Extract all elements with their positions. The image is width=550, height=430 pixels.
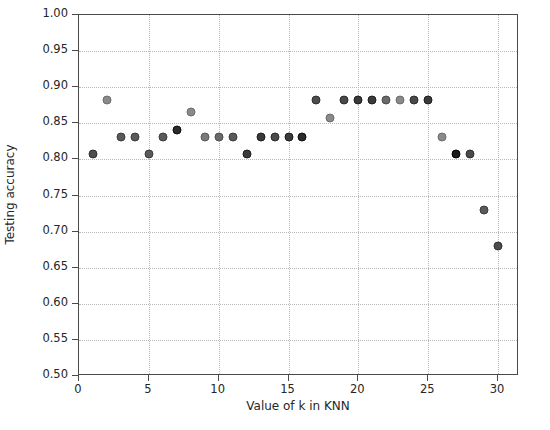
data-point <box>438 133 447 142</box>
data-point <box>144 150 153 159</box>
y-tick-label: 0.85 <box>30 114 68 128</box>
data-point <box>396 96 405 105</box>
x-tick-mark <box>218 375 219 381</box>
gridline-y-0.85 <box>79 123 517 124</box>
data-point <box>214 133 223 142</box>
x-tick-mark <box>78 375 79 381</box>
y-tick-label: 0.65 <box>30 259 68 273</box>
x-tick-label: 20 <box>350 382 365 396</box>
data-point <box>116 133 125 142</box>
y-tick-mark <box>72 231 78 232</box>
y-tick-label: 0.95 <box>30 42 68 56</box>
data-point <box>466 150 475 159</box>
data-point <box>480 205 489 214</box>
x-tick-mark <box>497 375 498 381</box>
data-point <box>130 133 139 142</box>
data-point <box>354 96 363 105</box>
gridline-y-0.90 <box>79 87 517 88</box>
x-tick-label: 10 <box>210 382 225 396</box>
data-point <box>382 96 391 105</box>
y-tick-label: 0.70 <box>30 223 68 237</box>
data-point <box>284 133 293 142</box>
gridline-y-0.60 <box>79 304 517 305</box>
data-point <box>312 96 321 105</box>
y-tick-mark <box>72 303 78 304</box>
y-tick-label: 0.80 <box>30 150 68 164</box>
y-tick-mark <box>72 339 78 340</box>
data-point <box>200 133 209 142</box>
y-tick-label: 0.60 <box>30 295 68 309</box>
gridline-x-20 <box>358 15 359 374</box>
data-point <box>326 113 335 122</box>
gridline-y-0.95 <box>79 51 517 52</box>
gridline-y-0.65 <box>79 268 517 269</box>
x-tick-mark <box>148 375 149 381</box>
gridline-y-0.75 <box>79 196 517 197</box>
x-tick-mark <box>427 375 428 381</box>
plot-area <box>78 14 518 375</box>
y-tick-mark <box>72 195 78 196</box>
scatter-plot-figure: 0.500.550.600.650.700.750.800.850.900.95… <box>0 0 550 430</box>
data-point <box>158 133 167 142</box>
x-tick-mark <box>357 375 358 381</box>
x-tick-label: 5 <box>144 382 151 396</box>
gridline-y-0.55 <box>79 340 517 341</box>
y-tick-label: 0.90 <box>30 78 68 92</box>
y-axis-label-container: Testing accuracy <box>6 14 26 375</box>
data-point <box>172 125 181 134</box>
data-point <box>368 96 377 105</box>
x-tick-label: 15 <box>280 382 295 396</box>
data-point <box>298 133 307 142</box>
x-axis-label: Value of k in KNN <box>78 399 518 413</box>
data-point <box>410 96 419 105</box>
data-point <box>242 150 251 159</box>
gridline-x-15 <box>289 15 290 374</box>
gridline-x-5 <box>149 15 150 374</box>
y-tick-label: 0.50 <box>30 367 68 381</box>
y-tick-label: 0.55 <box>30 331 68 345</box>
x-tick-label: 25 <box>420 382 435 396</box>
x-tick-label: 30 <box>490 382 505 396</box>
y-tick-mark <box>72 267 78 268</box>
data-point <box>102 96 111 105</box>
y-tick-label: 0.75 <box>30 187 68 201</box>
y-tick-label: 1.00 <box>30 6 68 20</box>
data-point <box>256 133 265 142</box>
data-point <box>88 150 97 159</box>
x-tick-mark <box>288 375 289 381</box>
data-point <box>452 150 461 159</box>
data-point <box>186 107 195 116</box>
y-tick-mark <box>72 50 78 51</box>
y-tick-mark <box>72 122 78 123</box>
data-point <box>424 96 433 105</box>
data-point <box>494 242 503 251</box>
data-point <box>228 133 237 142</box>
y-tick-mark <box>72 14 78 15</box>
data-point <box>340 96 349 105</box>
y-axis-label: Testing accuracy <box>0 14 20 375</box>
data-point <box>270 133 279 142</box>
y-tick-mark <box>72 158 78 159</box>
y-tick-mark <box>72 86 78 87</box>
gridline-y-0.70 <box>79 232 517 233</box>
gridline-y-0.80 <box>79 159 517 160</box>
gridline-x-30 <box>498 15 499 374</box>
x-tick-label: 0 <box>74 382 81 396</box>
gridline-x-25 <box>428 15 429 374</box>
gridline-x-10 <box>219 15 220 374</box>
